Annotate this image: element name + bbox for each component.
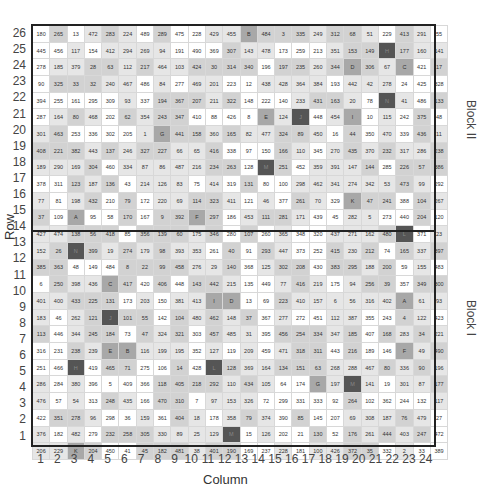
grid-cell: 407 xyxy=(361,326,378,343)
grid-cell: B xyxy=(240,26,257,43)
grid-cell: 312 xyxy=(327,26,344,43)
grid-cell: 464 xyxy=(154,59,171,76)
grid-cell: 323 xyxy=(205,192,222,209)
grid-cell: 87 xyxy=(136,159,153,176)
grid-cell: 31 xyxy=(240,326,257,343)
grid-cell: 451 xyxy=(309,309,326,326)
row-label: 3 xyxy=(0,396,26,410)
grid-cell: 104 xyxy=(171,309,188,326)
grid-cell: 198 xyxy=(67,192,84,209)
grid-cell: 52 xyxy=(327,426,344,443)
grid-cell: 113 xyxy=(33,326,50,343)
grid-cell: 63 xyxy=(309,359,326,376)
grid-cell: 40 xyxy=(223,242,240,259)
grid-cell: 388 xyxy=(396,192,413,209)
grid-cell: 306 xyxy=(361,59,378,76)
grid-cell: 20 xyxy=(344,92,361,109)
grid-cell: 44 xyxy=(344,126,361,143)
grid-cell: 251 xyxy=(275,159,292,176)
grid-cell: 453 xyxy=(240,209,257,226)
grid-cell: 49 xyxy=(413,343,430,360)
grid-cell: 428 xyxy=(188,359,205,376)
grid-cell: 194 xyxy=(154,92,171,109)
grid-cell: 255 xyxy=(50,92,67,109)
grid-cell: 470 xyxy=(154,393,171,410)
grid-cell: 69 xyxy=(171,192,188,209)
grid-cell: 246 xyxy=(119,142,136,159)
grid-cell: 294 xyxy=(119,42,136,59)
grid-cell: 250 xyxy=(50,276,67,293)
grid-cell: 78 xyxy=(361,92,378,109)
row-label: 6 xyxy=(0,348,26,362)
grid-cell: 168 xyxy=(378,326,395,343)
grid-cell: 153 xyxy=(344,42,361,59)
grid-cell: 398 xyxy=(67,276,84,293)
grid-cell: 413 xyxy=(188,293,205,310)
grid-cell: 4 xyxy=(396,309,413,326)
grid-cell: 232 xyxy=(102,426,119,443)
grid-cell: 37 xyxy=(240,309,257,326)
grid-cell: 238 xyxy=(430,142,447,159)
grid-cell: 95 xyxy=(84,209,101,226)
grid-cell: 288 xyxy=(344,359,361,376)
grid-cell: 281 xyxy=(275,209,292,226)
grid-cell: 320 xyxy=(309,226,326,243)
grid-cell: 79 xyxy=(119,192,136,209)
grid-cell: 15 xyxy=(240,426,257,443)
grid-cell: 235 xyxy=(292,59,309,76)
row-label: 7 xyxy=(0,332,26,346)
grid-cell: 252 xyxy=(309,242,326,259)
grid-cell: 333 xyxy=(309,393,326,410)
grid-cell: 334 xyxy=(309,326,326,343)
grid-cell: 260 xyxy=(257,226,274,243)
grid-cell: 416 xyxy=(292,276,309,293)
grid-cell: 143 xyxy=(240,42,257,59)
grid-cell: 143 xyxy=(188,276,205,293)
grid-cell: 311 xyxy=(309,343,326,360)
grid-cell: 167 xyxy=(136,209,153,226)
grid-cell: 42 xyxy=(361,76,378,93)
grid-cell: 107 xyxy=(240,226,257,243)
grid-cell: 275 xyxy=(136,359,153,376)
row-label: 20 xyxy=(0,123,26,137)
grid-cell: 196 xyxy=(257,59,274,76)
grid-cell: 448 xyxy=(309,109,326,126)
grid-cell: 77 xyxy=(275,276,292,293)
grid-cell: 468 xyxy=(84,109,101,126)
grid-cell: 56 xyxy=(84,226,101,243)
grid-cell: 262 xyxy=(67,309,84,326)
grid-cell: 145 xyxy=(309,409,326,426)
grid-cell: 373 xyxy=(292,242,309,259)
grid-cell: 99 xyxy=(154,259,171,276)
grid-cell: 374 xyxy=(257,409,274,426)
grid-cell: 72 xyxy=(257,393,274,410)
grid-cell: 165 xyxy=(223,126,240,143)
row-label: 17 xyxy=(0,171,26,185)
grid-cell: 85 xyxy=(292,409,309,426)
grid-cell: I xyxy=(344,109,361,126)
grid-cell: 85 xyxy=(119,226,136,243)
grid-cell: 300 xyxy=(430,276,447,293)
grid-cell: 201 xyxy=(205,76,222,93)
row-label: 16 xyxy=(0,187,26,201)
grid-cell: 490 xyxy=(188,42,205,59)
grid-cell: 19 xyxy=(378,376,395,393)
grid-cell: 215 xyxy=(223,276,240,293)
grid-cell: 91 xyxy=(240,242,257,259)
grid-cell: 383 xyxy=(327,259,344,276)
grid-cell: 187 xyxy=(84,176,101,193)
grid-cell: 140 xyxy=(223,259,240,276)
grid-cell: 478 xyxy=(257,42,274,59)
grid-cell: 166 xyxy=(136,393,153,410)
grid-cell: H xyxy=(378,42,395,59)
grid-cell: 69 xyxy=(257,293,274,310)
grid-cell: 292 xyxy=(205,376,222,393)
grid-cell: 43 xyxy=(119,176,136,193)
grid-cell: 195 xyxy=(171,343,188,360)
grid-cell: 391 xyxy=(327,159,344,176)
grid-cell: 227 xyxy=(154,142,171,159)
column-label: 23 xyxy=(401,452,418,466)
grid-cell: 121 xyxy=(84,309,101,326)
grid-cell: 393 xyxy=(171,242,188,259)
grid-cell: 259 xyxy=(292,42,309,59)
